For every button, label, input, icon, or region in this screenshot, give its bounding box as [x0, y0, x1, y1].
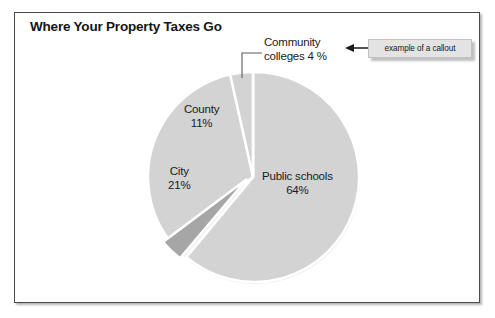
- slice-label-city-value: 21%: [168, 179, 190, 193]
- slice-label-public-schools: Public schools 64%: [262, 170, 333, 197]
- slice-label-community-colleges: Community colleges 4 %: [264, 36, 327, 63]
- callout-text: example of a callout: [385, 44, 456, 53]
- slice-label-community-colleges-line1: Community: [264, 36, 327, 50]
- slice-label-public-schools-name: Public schools: [262, 170, 333, 184]
- callout-box[interactable]: example of a callout: [368, 39, 472, 58]
- slice-label-public-schools-value: 64%: [262, 184, 333, 198]
- slice-label-county-value: 11%: [184, 117, 219, 131]
- slice-label-community-colleges-line2: colleges 4 %: [264, 50, 327, 64]
- slice-label-county: County 11%: [184, 103, 219, 130]
- slice-label-city-name: City: [168, 165, 190, 179]
- slice-label-county-name: County: [184, 103, 219, 117]
- slice-label-city: City 21%: [168, 165, 190, 192]
